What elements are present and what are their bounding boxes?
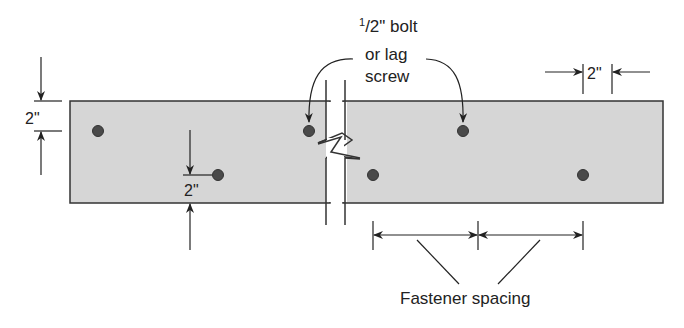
fastener-dot	[458, 126, 469, 137]
diagram-svg: 2" 2" 2" 1/2" bolt or lag screw	[0, 0, 684, 328]
left-edge-dimension-label: 2"	[25, 110, 40, 127]
fastener-dot	[368, 170, 379, 181]
fastener-spacing-dimension	[373, 221, 583, 284]
fastener-dot	[304, 126, 315, 137]
right-end-dimension-label: 2"	[587, 65, 602, 82]
plank	[70, 101, 663, 203]
callout-label-line1: 1/2" bolt	[359, 16, 418, 36]
fastener-spacing-label: Fastener spacing	[400, 289, 530, 308]
fastener-dot	[578, 170, 589, 181]
fastener-dot	[213, 170, 224, 181]
fastener-dot	[93, 126, 104, 137]
callout-label-line2: or lag	[365, 45, 408, 64]
fastener-spacing-diagram: 2" 2" 2" 1/2" bolt or lag screw	[0, 0, 684, 328]
inner-edge-dimension-label: 2"	[184, 182, 199, 199]
callout-label-line3: screw	[365, 67, 410, 86]
